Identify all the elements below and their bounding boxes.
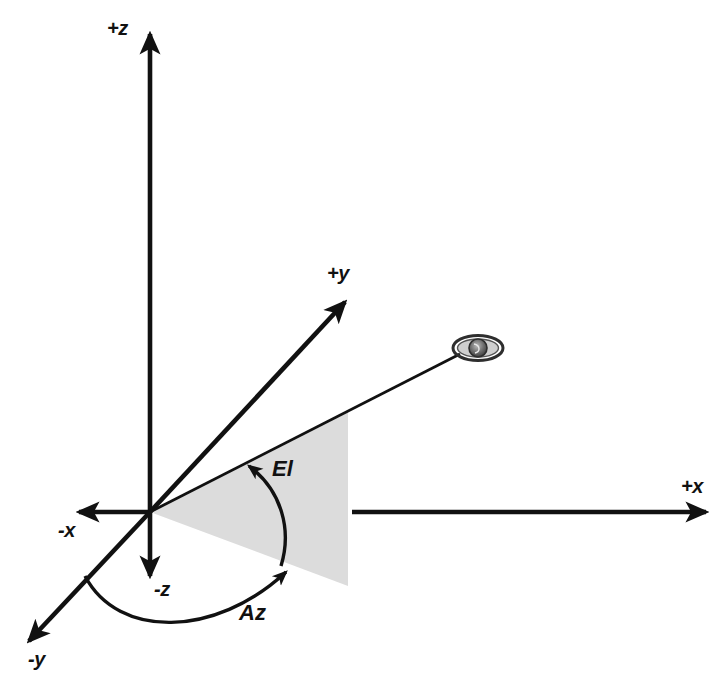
satellite-icon xyxy=(453,336,503,361)
axis-label-minus-z: -z xyxy=(154,578,170,601)
axis-minus-y-line xyxy=(29,512,150,641)
axis-label-plus-y: +y xyxy=(327,262,349,285)
azimuth-angle-label: Az xyxy=(239,600,266,626)
axis-label-minus-y: -y xyxy=(28,648,45,671)
elevation-angle-label: El xyxy=(272,456,293,482)
diagram-canvas xyxy=(0,0,727,688)
axis-label-minus-x: -x xyxy=(58,519,75,542)
axis-label-plus-x: +x xyxy=(681,475,703,498)
elevation-wedge xyxy=(150,411,348,586)
axis-label-plus-z: +z xyxy=(107,17,128,40)
azimuth-elevation-diagram: +z -z +x -x +y -y El Az xyxy=(0,0,727,688)
